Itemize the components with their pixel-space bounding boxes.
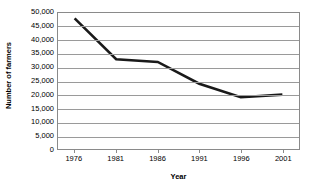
gridline [58, 82, 299, 83]
x-axis-tick-mark [283, 150, 284, 153]
y-axis-tick-label: 0 [50, 146, 54, 154]
gridline [58, 40, 299, 41]
x-axis-tick-mark [74, 150, 75, 153]
y-axis-tick-label: 5,000 [35, 132, 54, 140]
y-axis-tick-label: 15,000 [31, 105, 54, 113]
x-axis-tick-label: 1986 [149, 154, 166, 163]
y-axis-tick-labels: 05,00010,00015,00020,00025,00030,00035,0… [16, 0, 56, 156]
x-axis-tick-mark [241, 150, 242, 153]
gridline [58, 26, 299, 27]
x-axis-tick-label: 1976 [65, 154, 82, 163]
y-axis-title-label: Number of farmers [5, 41, 14, 108]
line-chart: Number of farmers 05,00010,00015,00020,0… [0, 0, 316, 196]
gridline [58, 54, 299, 55]
x-axis-ticks: 197619811986199119962001 [57, 150, 300, 168]
gridline [58, 68, 299, 69]
x-axis-tick-label: 1991 [191, 154, 208, 163]
y-axis-tick-label: 40,000 [31, 36, 54, 44]
y-axis-tick-label: 30,000 [31, 63, 54, 71]
y-axis-tick-label: 45,000 [31, 22, 54, 30]
x-axis-title: Year [57, 172, 300, 181]
series-polyline [75, 18, 283, 97]
y-axis-tick-label: 25,000 [31, 77, 54, 85]
x-axis-tick-mark [116, 150, 117, 153]
y-axis-tick-label: 20,000 [31, 91, 54, 99]
x-axis-tick-label: 2001 [275, 154, 292, 163]
plot-area [57, 12, 300, 150]
gridline [58, 123, 299, 124]
y-axis-tick-label: 50,000 [31, 8, 54, 16]
gridline [58, 109, 299, 110]
x-axis-tick-label: 1981 [107, 154, 124, 163]
x-axis-tick-label: 1996 [233, 154, 250, 163]
x-axis-tick-mark [158, 150, 159, 153]
y-axis-tick-label: 35,000 [31, 49, 54, 57]
gridline [58, 95, 299, 96]
gridline [58, 137, 299, 138]
x-axis-tick-mark [199, 150, 200, 153]
y-axis-tick-label: 10,000 [31, 118, 54, 126]
